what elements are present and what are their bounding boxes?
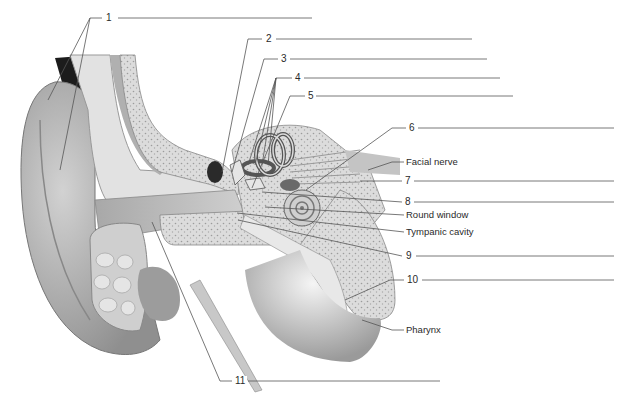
label-number-4: 4 bbox=[293, 73, 303, 83]
label-tympanic-cavity: Tympanic cavity bbox=[406, 227, 474, 237]
label-number-8: 8 bbox=[403, 197, 413, 207]
ear-anatomy-diagram: 1 2 3 4 5 6 7 8 9 10 11 Facial nerve Rou… bbox=[0, 0, 632, 397]
leader-lines bbox=[0, 0, 632, 397]
label-number-7: 7 bbox=[403, 176, 413, 186]
label-number-3: 3 bbox=[279, 54, 289, 64]
label-number-11: 11 bbox=[233, 376, 247, 386]
label-number-1: 1 bbox=[104, 13, 114, 23]
label-facial-nerve: Facial nerve bbox=[406, 157, 458, 167]
label-pharynx: Pharynx bbox=[406, 325, 441, 335]
label-round-window: Round window bbox=[406, 210, 468, 220]
label-number-2: 2 bbox=[264, 34, 274, 44]
label-number-6: 6 bbox=[407, 123, 417, 133]
label-number-10: 10 bbox=[405, 275, 420, 285]
label-number-5: 5 bbox=[306, 91, 316, 101]
label-number-9: 9 bbox=[404, 251, 414, 261]
